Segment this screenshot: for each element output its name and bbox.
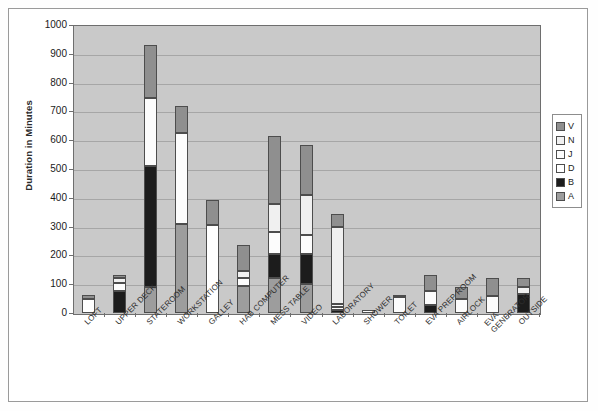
legend-swatch-a <box>556 192 565 201</box>
bar-group[interactable] <box>517 278 530 313</box>
x-tick-mark <box>135 313 136 317</box>
bar-segment-d[interactable] <box>206 225 219 313</box>
legend-label: A <box>568 192 574 201</box>
bar-segment-v[interactable] <box>268 136 281 204</box>
x-tick-mark <box>446 313 447 317</box>
legend-item-n[interactable]: N <box>556 133 578 147</box>
bar-segment-v[interactable] <box>175 106 188 133</box>
bar-segment-b[interactable] <box>144 166 157 287</box>
legend-item-b[interactable]: B <box>556 175 578 189</box>
bar-group[interactable] <box>206 200 219 313</box>
bar-segment-n[interactable] <box>113 278 126 283</box>
bar-group[interactable] <box>424 275 437 313</box>
bar-segment-n[interactable] <box>300 195 313 235</box>
bar-group[interactable] <box>268 136 281 313</box>
bar-segment-n[interactable] <box>268 204 281 233</box>
bar-segment-b[interactable] <box>113 291 126 313</box>
bar-segment-j[interactable] <box>362 310 375 313</box>
bar-group[interactable] <box>393 295 406 313</box>
bar-segment-v[interactable] <box>144 45 157 98</box>
bar-segment-j[interactable] <box>455 299 468 313</box>
legend-label: N <box>568 136 575 145</box>
legend-swatch-n <box>556 136 565 145</box>
bar-segment-j[interactable] <box>144 98 157 166</box>
bar-segment-v[interactable] <box>82 295 95 298</box>
bar-group[interactable] <box>362 310 375 313</box>
legend-swatch-v <box>556 122 565 131</box>
bar-segment-a[interactable] <box>175 224 188 313</box>
bar-group[interactable] <box>113 275 126 313</box>
x-tick-mark <box>539 313 540 317</box>
bar-segment-j[interactable] <box>424 291 437 305</box>
x-tick-mark <box>166 313 167 317</box>
bar-segment-v[interactable] <box>517 278 530 287</box>
bar-group[interactable] <box>331 214 344 313</box>
bar-segment-n[interactable] <box>517 287 530 294</box>
bar-segment-j[interactable] <box>175 133 188 224</box>
bars-layer <box>73 25 539 313</box>
y-tick-label: 100 <box>27 279 67 289</box>
bar-segment-b[interactable] <box>300 254 313 284</box>
y-tick-label: 900 <box>27 49 67 59</box>
y-tick-label: 600 <box>27 135 67 145</box>
bar-segment-a[interactable] <box>268 278 281 313</box>
y-tick-label: 0 <box>27 308 67 318</box>
bar-group[interactable] <box>144 45 157 313</box>
bar-segment-v[interactable] <box>393 295 406 297</box>
bar-group[interactable] <box>175 106 188 313</box>
legend-label: J <box>568 150 573 159</box>
bar-segment-j[interactable] <box>300 235 313 254</box>
x-tick-mark <box>290 313 291 317</box>
legend-item-j[interactable]: J <box>556 147 578 161</box>
bar-segment-b[interactable] <box>268 254 281 278</box>
x-tick-mark <box>384 313 385 317</box>
bar-segment-j[interactable] <box>268 232 281 254</box>
bar-segment-v[interactable] <box>455 287 468 299</box>
bar-segment-v[interactable] <box>206 200 219 225</box>
y-tick-label: 200 <box>27 250 67 260</box>
bar-segment-v[interactable] <box>237 245 250 271</box>
bar-segment-a[interactable] <box>144 287 157 313</box>
legend-swatch-j <box>556 150 565 159</box>
bar-group[interactable] <box>486 278 499 313</box>
bar-segment-b[interactable] <box>424 305 437 313</box>
bar-segment-b[interactable] <box>517 294 530 313</box>
bar-segment-j[interactable] <box>331 304 344 307</box>
x-tick-mark <box>353 313 354 317</box>
bar-segment-j[interactable] <box>486 296 499 313</box>
bar-segment-v[interactable] <box>113 275 126 278</box>
bar-segment-j[interactable] <box>113 283 126 291</box>
legend-item-d[interactable]: D <box>556 161 578 175</box>
bar-segment-d[interactable] <box>82 299 95 313</box>
x-tick-mark <box>508 313 509 317</box>
bar-segment-v[interactable] <box>424 275 437 291</box>
y-tick-label: 800 <box>27 78 67 88</box>
bar-group[interactable] <box>300 145 313 313</box>
bar-segment-v[interactable] <box>331 214 344 227</box>
bar-segment-a[interactable] <box>300 284 313 313</box>
bar-segment-v[interactable] <box>300 145 313 195</box>
bar-segment-j[interactable] <box>393 297 406 313</box>
x-tick-mark <box>104 313 105 317</box>
y-tick-label: 400 <box>27 193 67 203</box>
y-tick-mark <box>69 313 73 314</box>
bar-segment-j[interactable] <box>237 278 250 286</box>
bar-segment-a[interactable] <box>237 286 250 313</box>
legend-label: B <box>568 178 574 187</box>
x-tick-mark <box>477 313 478 317</box>
y-tick-label: 700 <box>27 106 67 116</box>
legend-item-a[interactable]: A <box>556 189 578 203</box>
x-tick-mark <box>322 313 323 317</box>
x-tick-mark <box>259 313 260 317</box>
bar-segment-d[interactable] <box>331 307 344 309</box>
legend-item-v[interactable]: V <box>556 119 578 133</box>
legend-label: V <box>568 122 574 131</box>
bar-segment-n[interactable] <box>237 271 250 277</box>
bar-group[interactable] <box>82 295 95 313</box>
bar-segment-n[interactable] <box>331 227 344 305</box>
bar-group[interactable] <box>455 287 468 313</box>
bar-group[interactable] <box>237 245 250 313</box>
bar-segment-v[interactable] <box>486 278 499 295</box>
bar-segment-b[interactable] <box>331 310 344 313</box>
x-tick-mark <box>415 313 416 317</box>
